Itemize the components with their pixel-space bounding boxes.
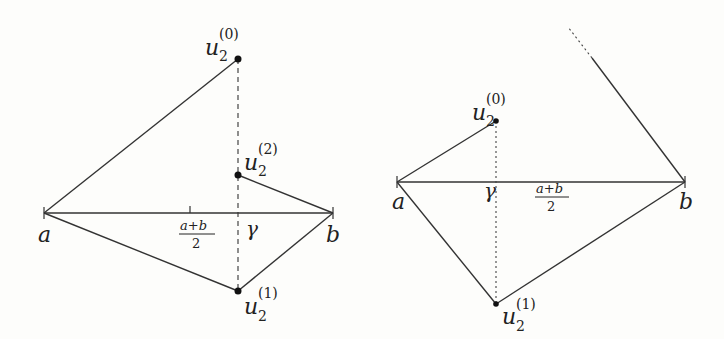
right-edge-a-u1	[397, 182, 496, 304]
left-u2-base: u	[244, 150, 258, 175]
right-midpoint-numerator: a+b	[536, 181, 563, 196]
right-edge-b-upward	[592, 58, 685, 182]
left-edge-a-u1	[44, 213, 238, 291]
left-u1-base: u	[244, 294, 258, 319]
right-u0-sub: 2	[486, 113, 495, 129]
right-point-u1	[493, 301, 499, 307]
right-midpoint-denominator: 2	[547, 199, 555, 214]
left-label-b: b	[326, 222, 340, 247]
right-label-a: a	[392, 189, 405, 214]
right-u0-sup: (0)	[486, 91, 506, 107]
right-edge-a-u0	[397, 121, 496, 182]
left-u0-base: u	[205, 35, 219, 60]
left-point-u0	[235, 56, 242, 63]
left-u2-sub: 2	[258, 163, 267, 179]
right-u1-base: u	[502, 304, 516, 329]
left-panel: a b γ a+b 2 u 2 (0) u 2 (2) u 2 (1)	[38, 26, 340, 324]
right-u1-sub: 2	[516, 318, 525, 334]
right-edge-u1-b	[496, 182, 685, 304]
right-u0-base: u	[472, 100, 486, 125]
left-midpoint-denominator: 2	[192, 236, 200, 251]
left-point-u1	[235, 288, 242, 295]
left-midpoint-numerator: a+b	[180, 218, 207, 233]
left-label-gamma: γ	[246, 217, 258, 241]
right-panel: a b γ a+b 2 u 2 (0) u 2 (1)	[392, 27, 693, 334]
left-u1-sub: 2	[258, 308, 267, 324]
left-u0-sub: 2	[219, 48, 228, 64]
right-u1-sup: (1)	[516, 296, 536, 312]
left-u2-sup: (2)	[258, 141, 278, 157]
right-label-gamma: γ	[484, 179, 496, 203]
right-edge-b-upward-dotted	[568, 27, 592, 58]
diagram-canvas: a b γ a+b 2 u 2 (0) u 2 (2) u 2 (1) a b …	[0, 0, 724, 339]
left-point-u2	[235, 172, 242, 179]
left-u0-sup: (0)	[219, 26, 239, 42]
left-edge-a-u0	[44, 59, 238, 213]
right-label-b: b	[679, 189, 693, 214]
left-label-a: a	[38, 222, 51, 247]
left-u1-sup: (1)	[258, 285, 278, 301]
left-edge-u2-b	[238, 175, 333, 213]
